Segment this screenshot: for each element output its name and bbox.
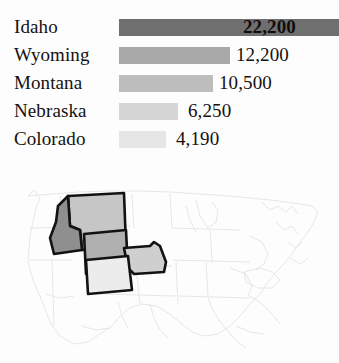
bar-value-label: 12,200 [236, 44, 289, 66]
bar-value-label: 22,200 [243, 16, 296, 38]
bar-montana [119, 75, 213, 92]
bar-category-label: Nebraska [14, 100, 87, 122]
bar-idaho [119, 19, 339, 36]
bar-category-label: Montana [14, 72, 82, 94]
united-states-map [0, 176, 339, 363]
bar-chart: Idaho 22,200 Wyoming 12,200 Montana 10,5… [0, 16, 339, 168]
table-row: Colorado 4,190 [0, 128, 339, 150]
bar-value-label: 6,250 [188, 100, 231, 122]
bar-value-label: 4,190 [176, 128, 219, 150]
bar-value-label: 10,500 [219, 72, 272, 94]
bar-category-label: Wyoming [14, 44, 90, 66]
bar-category-label: Colorado [14, 128, 86, 150]
table-row: Wyoming 12,200 [0, 44, 339, 66]
bar-colorado [119, 131, 166, 148]
infographic-panel: Idaho 22,200 Wyoming 12,200 Montana 10,5… [0, 0, 339, 363]
bar-wyoming [119, 47, 230, 64]
table-row: Idaho 22,200 [0, 16, 339, 38]
table-row: Montana 10,500 [0, 72, 339, 94]
bar-category-label: Idaho [14, 16, 58, 38]
bar-nebraska [119, 103, 178, 120]
table-row: Nebraska 6,250 [0, 100, 339, 122]
map-state-colorado [86, 256, 132, 294]
